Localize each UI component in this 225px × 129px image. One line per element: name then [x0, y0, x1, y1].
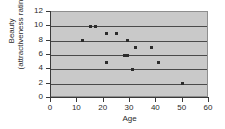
gridline-y-10: [51, 26, 207, 27]
y-tick-mark-2: [46, 83, 50, 84]
data-point: [94, 25, 97, 28]
x-tick-mark-10: [76, 98, 77, 102]
gridline-y-6: [51, 55, 207, 56]
x-tick-label-20: 20: [91, 103, 115, 112]
x-tick-label-10: 10: [64, 103, 88, 112]
x-tick-label-0: 0: [38, 103, 62, 112]
data-point: [134, 46, 137, 49]
scatter-plot-figure: Beauty (attractiveness rating) Age 02468…: [0, 0, 225, 129]
x-tick-label-30: 30: [117, 103, 141, 112]
data-point: [105, 32, 108, 35]
x-axis-title: Age: [50, 114, 209, 123]
x-tick-label-50: 50: [170, 103, 194, 112]
x-tick-mark-20: [103, 98, 104, 102]
y-tick-mark-6: [46, 54, 50, 55]
data-point: [181, 82, 184, 85]
y-tick-mark-4: [46, 68, 50, 69]
y-tick-label-0: 0: [13, 93, 43, 101]
x-tick-mark-60: [208, 98, 209, 102]
data-point: [105, 61, 108, 64]
data-point: [89, 25, 92, 28]
y-tick-label-6: 6: [13, 50, 43, 58]
y-tick-mark-10: [46, 25, 50, 26]
gridline-y-8: [51, 41, 207, 42]
x-tick-mark-50: [182, 98, 183, 102]
data-point: [157, 61, 160, 64]
x-tick-mark-0: [50, 98, 51, 102]
y-axis-line: [50, 11, 51, 98]
y-tick-label-2: 2: [13, 79, 43, 87]
x-tick-label-40: 40: [143, 103, 167, 112]
y-tick-label-12: 12: [13, 7, 43, 15]
x-tick-mark-30: [129, 98, 130, 102]
y-tick-mark-8: [46, 40, 50, 41]
plot-area: [50, 11, 208, 97]
data-point: [81, 39, 84, 42]
y-tick-label-10: 10: [13, 21, 43, 29]
x-tick-mark-40: [155, 98, 156, 102]
y-tick-label-4: 4: [13, 64, 43, 72]
data-point: [131, 68, 134, 71]
y-tick-mark-12: [46, 11, 50, 12]
data-point: [115, 32, 118, 35]
data-point: [126, 54, 129, 57]
x-tick-label-60: 60: [196, 103, 220, 112]
y-tick-label-8: 8: [13, 36, 43, 44]
data-point: [126, 39, 129, 42]
data-point: [150, 46, 153, 49]
gridline-y-4: [51, 69, 207, 70]
